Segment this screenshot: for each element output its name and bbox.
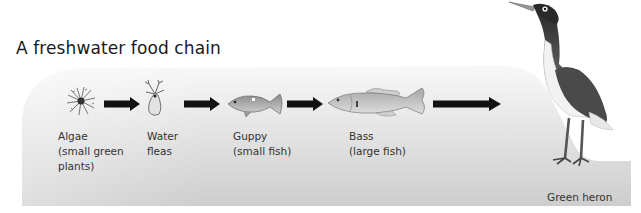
label-water-fleas: Water fleas bbox=[147, 129, 178, 159]
green-heron-icon bbox=[505, 0, 617, 175]
arrow-icon bbox=[287, 97, 323, 111]
label-bass: Bass (large fish) bbox=[349, 129, 406, 159]
label-green-heron: Green heron bbox=[547, 190, 612, 205]
label-algae: Algae (small green plants) bbox=[58, 129, 124, 174]
label-algae-line1: Algae bbox=[58, 129, 124, 144]
arrow-icon bbox=[104, 97, 140, 111]
label-guppy: Guppy (small fish) bbox=[233, 129, 291, 159]
label-water-fleas-line1: Water bbox=[147, 129, 178, 144]
water-flea-icon bbox=[143, 80, 167, 118]
arrow-icon bbox=[433, 97, 501, 111]
label-bass-line1: Bass bbox=[349, 129, 406, 144]
bass-icon bbox=[326, 86, 430, 120]
label-algae-line2: (small green bbox=[58, 144, 124, 159]
label-guppy-line1: Guppy bbox=[233, 129, 291, 144]
label-algae-line3: plants) bbox=[58, 159, 124, 174]
guppy-icon bbox=[226, 92, 284, 118]
label-water-fleas-line2: fleas bbox=[147, 144, 178, 159]
label-bass-line2: (large fish) bbox=[349, 144, 406, 159]
algae-icon bbox=[65, 86, 97, 116]
arrow-icon bbox=[184, 97, 220, 111]
label-guppy-line2: (small fish) bbox=[233, 144, 291, 159]
